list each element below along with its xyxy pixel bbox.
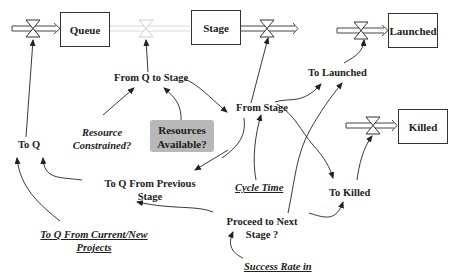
link-tokilled-valve: [357, 136, 372, 180]
stock-launched-label: Launched: [389, 25, 436, 37]
aux-proceed-line2: Stage ?: [214, 228, 310, 241]
link-cycletime-fromstage: [254, 115, 261, 180]
aux-success-rate-in[interactable]: Success Rate in: [244, 260, 312, 273]
aux-cycle-time-label: Cycle Time: [235, 182, 283, 193]
aux-to-q-from-current-new-projects[interactable]: To Q From Current/New Projects: [34, 228, 154, 254]
aux-resources-available-line1: Resources: [150, 123, 214, 137]
stock-queue[interactable]: Queue: [60, 12, 110, 47]
link-toq-valve: [26, 40, 33, 137]
link-fromstage-toqprev: [195, 150, 228, 170]
link-resources-available: [164, 88, 181, 122]
aux-to-q-from-previous-line1: To Q From Previous: [90, 177, 210, 190]
aux-to-q-from-previous-line2: Stage: [90, 190, 210, 203]
aux-success-rate-label: Success Rate in: [244, 261, 312, 272]
aux-resource-constrained-line1: Resource: [62, 126, 142, 139]
flow-label-to-killed[interactable]: To Killed: [329, 186, 370, 199]
stock-launched[interactable]: Launched: [388, 13, 438, 48]
stock-stage-label: Stage: [203, 22, 229, 34]
link-resource-constrained: [103, 88, 134, 115]
valve-to-q: [26, 20, 40, 37]
aux-cycle-time[interactable]: Cycle Time: [235, 181, 283, 194]
aux-to-q-current-line2: Projects: [77, 242, 112, 253]
stock-queue-label: Queue: [70, 24, 101, 36]
flow-label-from-q-to-stage[interactable]: From Q to Stage: [114, 71, 188, 84]
link-fromstage-tolaunched: [275, 84, 321, 102]
flow-pipe-queue-to-stage: [109, 26, 190, 31]
valve-to-launched: [354, 22, 368, 39]
link-fromq-fromstage: [185, 79, 227, 112]
aux-resources-available[interactable]: Resources Available?: [150, 120, 214, 152]
flow-label-to-launched[interactable]: To Launched: [308, 66, 367, 79]
link-toqprev-toq: [43, 158, 82, 180]
flow-label-from-stage[interactable]: From Stage: [236, 101, 288, 114]
aux-proceed-to-next-stage[interactable]: Proceed to Next Stage ?: [214, 215, 310, 241]
stock-killed[interactable]: Killed: [398, 109, 448, 144]
link-fromq-valve: [146, 40, 148, 72]
aux-proceed-line1: Proceed to Next: [214, 215, 310, 228]
stock-killed-label: Killed: [409, 121, 438, 133]
link-toqcurrent-toq: [17, 158, 60, 221]
flow-label-to-q[interactable]: To Q: [18, 138, 40, 151]
stock-stage[interactable]: Stage: [191, 10, 241, 45]
link-proceed-tokilled: [309, 202, 343, 217]
aux-resource-constrained-line2: Constrained?: [62, 139, 142, 152]
link-fromstage-valve: [251, 38, 268, 103]
valve-to-killed: [366, 117, 380, 134]
aux-to-q-current-line1: To Q From Current/New: [40, 229, 147, 240]
valve-from-q-to-stage: [139, 20, 153, 37]
link-tolaunched-valve: [344, 40, 364, 63]
aux-resources-available-line2: Available?: [150, 137, 214, 151]
link-proceed-toqprev: [137, 202, 213, 212]
aux-resource-constrained[interactable]: Resource Constrained?: [62, 126, 142, 152]
valve-from-stage: [260, 20, 274, 37]
aux-to-q-from-previous-stage[interactable]: To Q From Previous Stage: [90, 177, 210, 203]
